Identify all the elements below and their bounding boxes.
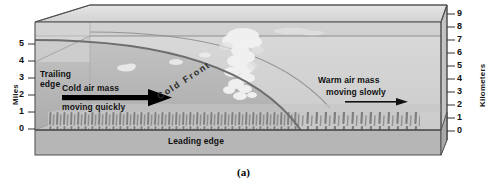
cold-air-gray-text: Cold air bbox=[62, 83, 97, 93]
miles-tick-4: 4 bbox=[19, 56, 24, 65]
miles-tick-0: 0 bbox=[19, 124, 24, 133]
cold-air-mass-label: Cold air mass bbox=[62, 84, 119, 94]
km-tick-9: 9 bbox=[457, 9, 462, 18]
miles-tick-3: 3 bbox=[19, 73, 24, 82]
figure-root: Miles 5 4 3 2 1 0 Kilometers 9 8 7 6 5 4… bbox=[0, 0, 489, 185]
cold-air-moving-label: moving quickly bbox=[62, 103, 125, 113]
km-tick-7: 7 bbox=[457, 35, 462, 44]
km-tick-2: 2 bbox=[457, 100, 462, 109]
warm-air-moving-label: moving slowly bbox=[326, 88, 386, 98]
ground-slab bbox=[35, 112, 447, 155]
km-tick-5: 5 bbox=[457, 61, 462, 70]
km-tick-0: 0 bbox=[457, 126, 462, 135]
km-tick-3: 3 bbox=[457, 87, 462, 96]
warm-air-bold-text: mass bbox=[357, 75, 379, 85]
cold-air-bold-text: mass bbox=[97, 83, 119, 93]
kilometers-axis-ticks bbox=[447, 14, 455, 131]
warm-air-gray-text: Warm air bbox=[318, 75, 357, 85]
miles-tick-1: 1 bbox=[19, 107, 24, 116]
miles-axis-ticks bbox=[28, 44, 35, 129]
miles-tick-5: 5 bbox=[19, 39, 24, 48]
kilometers-axis-title: Kilometers bbox=[478, 64, 487, 107]
box-top-lid bbox=[35, 5, 447, 22]
figure-caption: (a) bbox=[237, 166, 250, 178]
km-tick-8: 8 bbox=[457, 22, 462, 31]
leading-edge-label: Leading edge bbox=[168, 137, 224, 147]
miles-tick-2: 2 bbox=[19, 90, 24, 99]
km-tick-6: 6 bbox=[457, 48, 462, 57]
km-tick-1: 1 bbox=[457, 113, 462, 122]
warm-air-mass-label: Warm air mass bbox=[318, 76, 379, 86]
km-tick-4: 4 bbox=[457, 74, 462, 83]
